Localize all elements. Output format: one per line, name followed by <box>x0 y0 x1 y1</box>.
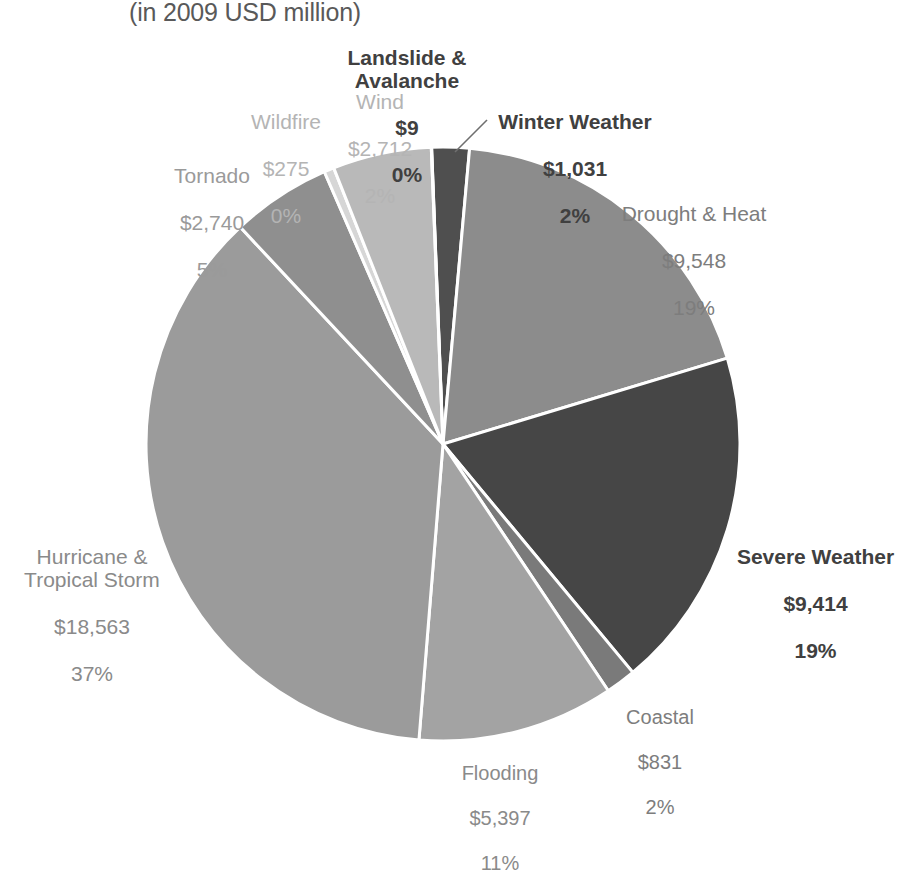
slice-label-flooding: Flooding $5,397 11% <box>420 740 580 874</box>
slice-label-percent: 5% <box>150 258 274 282</box>
slice-label-name: Severe Weather <box>718 545 913 569</box>
slice-label-percent: 2% <box>600 796 720 818</box>
slice-label-name: Winter Weather <box>470 110 680 134</box>
slice-label-value: $831 <box>600 751 720 773</box>
slice-label-coastal: Coastal $831 2% <box>600 684 720 841</box>
slice-label-hurricane-tropical-storm: Hurricane & Tropical Storm $18,563 37% <box>2 521 182 709</box>
slice-label-percent: 0% <box>233 204 339 228</box>
slice-label-value: $9,414 <box>718 592 913 616</box>
slice-label-value: $1,031 <box>470 157 680 181</box>
slice-label-value: $2,712 <box>330 137 430 161</box>
slice-label-name: Drought & Heat <box>596 202 792 226</box>
slice-label-name: Flooding <box>420 762 580 784</box>
slice-label-value: $275 <box>233 157 339 181</box>
slice-label-percent: 19% <box>718 639 913 663</box>
slice-label-value: $18,563 <box>2 615 182 639</box>
slice-label-wind: Wind $2,712 2% <box>330 66 430 231</box>
slice-label-drought-heat: Drought & Heat $9,548 19% <box>596 178 792 343</box>
slice-label-percent: 2% <box>330 184 430 208</box>
slice-label-severe-weather: Severe Weather $9,414 19% <box>718 521 913 686</box>
slice-label-name: Wind <box>330 90 430 114</box>
slice-label-percent: 11% <box>420 852 580 874</box>
slice-label-percent: 37% <box>2 662 182 686</box>
slice-label-name: Coastal <box>600 706 720 728</box>
slice-label-wildfire: Wildfire $275 0% <box>233 86 339 251</box>
slice-label-name: Wildfire <box>233 110 339 134</box>
slice-label-value: $5,397 <box>420 807 580 829</box>
slice-label-value: $9,548 <box>596 249 792 273</box>
slice-label-percent: 19% <box>596 296 792 320</box>
slice-label-name: Hurricane & Tropical Storm <box>2 545 182 592</box>
